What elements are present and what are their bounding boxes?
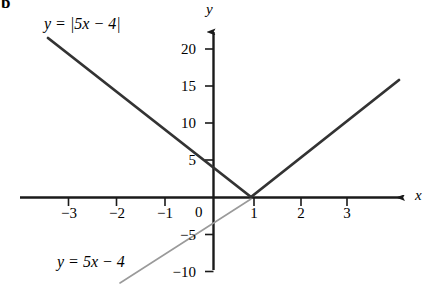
y-tick-label-5: 5 bbox=[158, 153, 196, 168]
figure-container: b y = |5x − 4| y = 5x − 4 y x 0 20 15 10… bbox=[0, 0, 429, 285]
origin-label: 0 bbox=[195, 205, 203, 220]
y-tick-label-minus-10: −10 bbox=[152, 265, 196, 280]
part-label: b bbox=[1, 0, 10, 11]
x-tick-label-minus-1: −1 bbox=[147, 206, 183, 221]
x-tick-label-minus-3: −3 bbox=[51, 206, 87, 221]
graph-plot bbox=[0, 0, 429, 285]
y-tick-label-20: 20 bbox=[158, 42, 196, 57]
y-tick-label-10: 10 bbox=[158, 116, 196, 131]
y-axis-label: y bbox=[206, 2, 213, 17]
x-tick-label-minus-2: −2 bbox=[99, 206, 135, 221]
curve-absolute-value-function bbox=[48, 38, 399, 197]
x-tick-label-2: 2 bbox=[287, 206, 315, 221]
x-tick-label-1: 1 bbox=[240, 206, 268, 221]
x-axis-label: x bbox=[415, 188, 422, 203]
equation-label-absolute-value: y = |5x − 4| bbox=[44, 16, 121, 32]
y-tick-label-15: 15 bbox=[158, 79, 196, 94]
x-tick-label-3: 3 bbox=[333, 206, 361, 221]
y-tick-label-minus-5: −5 bbox=[158, 228, 196, 243]
equation-label-linear: y = 5x − 4 bbox=[57, 254, 125, 270]
